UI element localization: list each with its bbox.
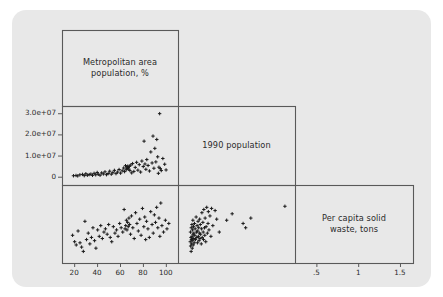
data-point (143, 215, 146, 218)
diagonal-variable-label: Metropolitan areapopulation, % (62, 57, 178, 79)
data-point (149, 210, 152, 213)
data-point (211, 224, 214, 227)
data-point (189, 250, 192, 253)
data-point (146, 164, 149, 167)
data-point (200, 211, 203, 214)
data-point (101, 237, 104, 240)
data-point (122, 208, 125, 211)
data-point (98, 235, 101, 238)
data-point (154, 221, 157, 224)
variable-label-line: Per capita solid (295, 213, 413, 224)
data-point (102, 230, 105, 233)
data-point (145, 158, 148, 161)
data-point (154, 160, 157, 163)
data-point (78, 241, 81, 244)
data-point (202, 230, 205, 233)
y-axis-tick-label: 1.0e+07 (25, 152, 56, 160)
data-point (139, 170, 142, 173)
data-point (134, 166, 137, 169)
data-point (90, 236, 93, 239)
data-point (136, 168, 139, 171)
data-point (110, 240, 113, 243)
data-point (130, 214, 133, 217)
data-point (205, 206, 208, 209)
data-point (241, 222, 244, 225)
diagonal-variable-label: 1990 population (178, 140, 295, 151)
data-point (207, 210, 210, 213)
y-axis-tick-label: 0 (51, 173, 56, 181)
data-point (153, 213, 156, 216)
data-point (160, 224, 163, 227)
y-axis-tick-label: 3.0e+07 (25, 109, 56, 117)
data-point (146, 227, 149, 230)
data-point (131, 226, 134, 229)
x-axis-tick-label: .5 (302, 269, 330, 277)
data-point (200, 227, 203, 230)
data-point (200, 242, 203, 245)
data-point (206, 231, 209, 234)
data-point (144, 238, 147, 241)
data-point (283, 205, 286, 208)
data-point (119, 226, 122, 229)
data-point (109, 236, 112, 239)
data-point (129, 233, 132, 236)
data-point (215, 217, 218, 220)
data-point (144, 168, 147, 171)
data-point (210, 207, 213, 210)
data-point (71, 234, 74, 237)
data-point (151, 134, 154, 137)
data-point (133, 237, 136, 240)
data-point (162, 230, 165, 233)
data-point (149, 150, 152, 153)
data-point (91, 226, 94, 229)
data-point (163, 163, 166, 166)
data-point (115, 228, 118, 231)
data-point (167, 222, 170, 225)
data-point (83, 220, 86, 223)
data-point (105, 233, 108, 236)
variable-label-line: 1990 population (178, 140, 295, 151)
data-point (93, 239, 96, 242)
data-point (145, 220, 148, 223)
data-point (155, 206, 158, 209)
data-point (135, 161, 138, 164)
data-point (156, 155, 159, 158)
data-point (164, 168, 167, 171)
data-point (203, 234, 206, 237)
x-axis-tick-label: 100 (152, 269, 180, 277)
data-point (140, 159, 143, 162)
data-point (152, 231, 155, 234)
data-point (137, 229, 140, 232)
data-point (191, 219, 194, 222)
data-point (73, 240, 76, 243)
data-point (204, 240, 207, 243)
variable-label-line: population, % (62, 68, 178, 79)
data-point (206, 222, 209, 225)
data-point (164, 219, 167, 222)
data-point (218, 230, 221, 233)
data-point (116, 235, 119, 238)
variable-label-line: waste, tons (295, 224, 413, 235)
data-point (107, 223, 110, 226)
data-point (104, 227, 107, 230)
data-point (199, 223, 202, 226)
data-point (153, 147, 156, 150)
data-point (141, 207, 144, 210)
data-point (87, 173, 90, 176)
data-point (138, 163, 141, 166)
data-point (148, 236, 151, 239)
data-point (99, 224, 102, 227)
data-point (127, 216, 130, 219)
data-point (87, 231, 90, 234)
scatterplot-matrix-figure: 01.0e+072.0e+073.0e+0720406080100.511.5M… (0, 0, 443, 297)
data-point (209, 235, 212, 238)
data-point (157, 216, 160, 219)
data-point (75, 243, 78, 246)
data-point (194, 215, 197, 218)
data-point (213, 209, 216, 212)
data-point (150, 223, 153, 226)
data-point (225, 219, 228, 222)
data-point (159, 201, 162, 204)
data-point (135, 222, 138, 225)
data-point (118, 222, 121, 225)
